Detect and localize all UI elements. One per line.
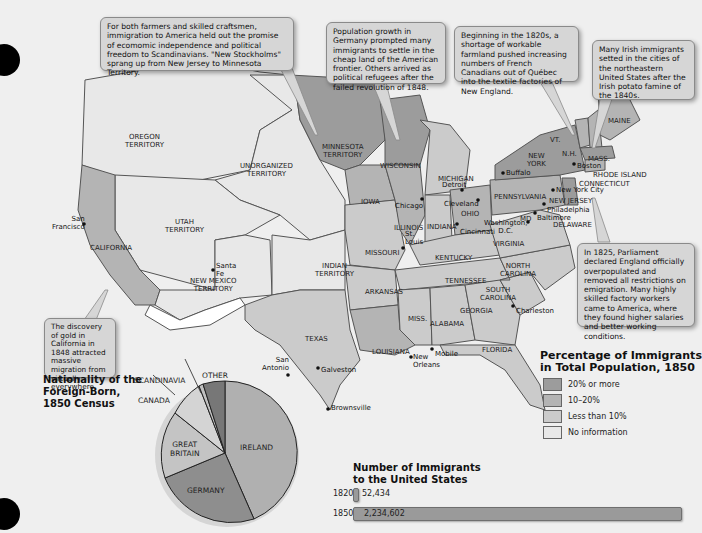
city-buffalo: Buffalo (506, 169, 531, 177)
city-philadelphia: Philadelphia (547, 206, 590, 214)
pie-label-germany: GERMANY (187, 486, 225, 495)
label-new-jersey: NEW JERSEY (549, 197, 592, 205)
legend-swatch (543, 410, 562, 423)
label-texas: TEXAS (305, 335, 328, 343)
label-north-carolina: NORTH CAROLINA (500, 262, 536, 278)
label-alabama: ALABAMA (430, 320, 464, 328)
legend-swatch (543, 426, 562, 439)
legend-item-10-20: 10–20% (543, 394, 600, 407)
legend-label: 10–20% (568, 396, 600, 405)
callout-pointer-england (592, 198, 610, 242)
bar-value-1820: 52,434 (362, 489, 390, 498)
legend-swatch (543, 394, 562, 407)
label-virginia: VIRGINIA (493, 240, 524, 248)
callout-pointer-quebec (540, 82, 575, 135)
callout-england: In 1825, Parliament declared England off… (577, 243, 695, 327)
label-georgia: GEORGIA (460, 307, 493, 315)
city-cleveland: Cleveland (444, 200, 479, 208)
city-charleston: Charleston (516, 307, 554, 315)
label-missouri: MISSOURI (365, 249, 400, 257)
label-iowa: IOWA (361, 198, 380, 206)
label-maine: MAINE (608, 117, 631, 125)
city-new-orleans: New Orleans (413, 353, 440, 369)
label-nh: N.H. (562, 150, 577, 158)
label-minnesota-territory: MINNESOTA TERRITORY (322, 143, 363, 159)
city-new-york-city: New York City (556, 186, 604, 194)
city-santa-fe: Santa Fe (216, 262, 236, 278)
region-missouri (345, 200, 405, 270)
label-unorganized-territory: UNORGANIZED TERRITORY (240, 162, 293, 178)
label-ohio: OHIO (461, 210, 479, 218)
label-florida: FLORIDA (482, 346, 512, 354)
callout-quebec: Beginning in the 1820s, a shortage of wo… (454, 26, 579, 82)
callout-california: The discovery of gold in California in 1… (44, 318, 116, 378)
pie-label-canada: CANADA (138, 396, 170, 405)
label-miss: MISS. (408, 315, 427, 323)
label-kentucky: KENTUCKY (435, 254, 472, 262)
city-boston: Boston (577, 162, 601, 170)
label-south-carolina: SOUTH CAROLINA (480, 286, 516, 302)
legend-item-20-plus: 20% or more (543, 378, 620, 391)
legend-title: Percentage of Immigrants in Total Popula… (540, 350, 702, 374)
bar-year-1820: 1820 (333, 489, 353, 498)
label-indiana: INDIANA (427, 223, 457, 231)
legend-label: No information (568, 428, 628, 437)
pie-label-ireland: IRELAND (240, 443, 273, 452)
label-tennessee: TENNESSEE (445, 277, 486, 285)
pie-label-great-britain: GREAT BRITAIN (170, 440, 200, 458)
label-vt: VT. (550, 136, 560, 144)
city-detroit: Detroit (442, 181, 466, 189)
legend-item-no-info: No information (543, 426, 628, 439)
legend-label: 20% or more (568, 380, 620, 389)
callout-pointer-california (84, 290, 108, 320)
city-galveston: Galveston (321, 366, 356, 374)
city-san-francisco: San Francisco (52, 215, 85, 231)
city-brownsville: Brownsville (331, 404, 371, 412)
label-wisconsin: WISCONSIN (380, 162, 421, 170)
label-new-mexico-territory: NEW MEXICO TERRITORY (190, 277, 237, 293)
label-rhode-island: RHODE ISLAND (593, 171, 647, 179)
label-louisiana: LOUISIANA (372, 348, 410, 356)
pie-label-scandinavia: SCANDINAVIA (134, 376, 185, 385)
pie-chart-title: Nationality of the Foreign-Born, 1850 Ce… (43, 374, 142, 410)
city-washington-dc: Washington, D.C. (484, 219, 527, 235)
city-chicago: Chicago (395, 202, 423, 210)
bar-value-1850: 2,234,602 (364, 509, 405, 518)
label-california: CALIFORNIA (90, 244, 132, 252)
label-oregon-territory: OREGON TERRITORY (125, 133, 164, 149)
label-indian-territory: INDIAN TERRITORY (315, 262, 354, 278)
legend-swatch (543, 378, 562, 391)
label-new-york: NEW YORK (527, 152, 546, 168)
callout-scandinavians: For both farmers and skilled craftsmen, … (100, 17, 294, 71)
bar-1820 (353, 488, 359, 502)
legend-item-under-10: Less than 10% (543, 410, 627, 423)
city-baltimore: Baltimore (537, 214, 571, 222)
pie-label-other: OTHER (202, 371, 228, 380)
label-arkansas: ARKANSAS (365, 288, 403, 296)
label-delaware: DELAWARE (553, 221, 592, 229)
label-pennsylvania: PENNSYLVANIA (494, 193, 546, 201)
legend-label: Less than 10% (568, 412, 627, 421)
city-st-louis: St. Louis (405, 230, 423, 246)
label-utah-territory: UTAH TERRITORY (165, 218, 204, 234)
bar-chart-title: Number of Immigrants to the United State… (353, 462, 481, 486)
city-san-antonio: San Antonio (262, 356, 289, 372)
bar-year-1850: 1850 (333, 509, 353, 518)
callout-irish: Many Irish immigrants setted in the citi… (592, 40, 695, 100)
callout-germany: Population growth in Germany prompted ma… (326, 22, 446, 84)
